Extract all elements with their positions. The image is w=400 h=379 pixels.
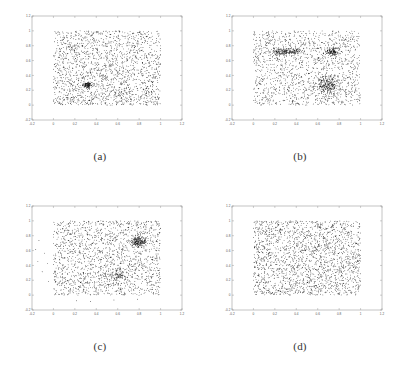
x-tick-label: 0.8 [337, 122, 342, 126]
data-points [253, 220, 361, 295]
y-tick-label: 0.4 [26, 74, 31, 78]
y-tick-label: 0.8 [26, 234, 31, 238]
x-tick-label: 1.2 [380, 312, 385, 316]
y-tick-label: 0.6 [26, 59, 31, 63]
y-tick-label: 0.6 [226, 59, 231, 63]
panel-caption-d: (d) [200, 340, 400, 352]
x-tick-label: 1 [360, 122, 362, 126]
panel-b: -0.200.20.40.60.811.2-0.200.20.40.60.811… [200, 0, 400, 189]
scatter-point-cloud [53, 30, 161, 105]
scatter-point-cloud [35, 220, 161, 301]
y-tick-label: 0 [29, 293, 31, 297]
scatter-chart-b: -0.200.20.40.60.811.2-0.200.20.40.60.811… [218, 12, 386, 132]
y-tick-label: 1 [229, 29, 231, 33]
panel-d: -0.200.20.40.60.811.2-0.200.20.40.60.811… [200, 190, 400, 379]
y-tick-label: 0.2 [226, 88, 231, 92]
x-tick-label: 0.2 [273, 312, 278, 316]
panel-c: -0.200.20.40.60.811.2-0.200.20.40.60.811… [0, 190, 200, 379]
y-tick-label: -0.2 [25, 308, 31, 312]
y-tick-label: 0.2 [26, 278, 31, 282]
x-tick-label: 0 [53, 122, 55, 126]
panel-caption-a: (a) [0, 150, 200, 162]
y-tick-label: 1.2 [26, 204, 31, 208]
panel-a: -0.200.20.40.60.811.2-0.200.20.40.60.811… [0, 0, 200, 189]
x-tick-label: 1 [160, 312, 162, 316]
plot-area-a: -0.200.20.40.60.811.2-0.200.20.40.60.811… [18, 12, 186, 132]
x-tick-label: 0 [253, 122, 255, 126]
y-tick-label: 1 [29, 29, 31, 33]
scatter-point-cloud [253, 30, 361, 105]
x-tick-label: 0 [53, 312, 55, 316]
y-tick-label: 0.2 [26, 88, 31, 92]
x-tick-label: 0.4 [294, 312, 299, 316]
x-tick-label: 0.6 [116, 312, 121, 316]
x-tick-label: -0.2 [229, 312, 235, 316]
x-tick-label: 0.6 [316, 122, 321, 126]
x-tick-label: 0.8 [337, 312, 342, 316]
y-tick-label: 1 [29, 219, 31, 223]
x-tick-label: 1 [160, 122, 162, 126]
x-tick-label: 0.4 [94, 122, 99, 126]
x-tick-label: 0.6 [316, 312, 321, 316]
y-tick-label: 1.2 [226, 204, 231, 208]
y-tick-label: 0 [229, 293, 231, 297]
y-tick-label: 1.2 [26, 14, 31, 18]
y-tick-label: 0 [29, 103, 31, 107]
y-tick-label: -0.2 [225, 118, 231, 122]
panel-caption-c: (c) [0, 340, 200, 352]
x-tick-label: -0.2 [29, 312, 35, 316]
y-tick-label: 0 [229, 103, 231, 107]
data-points [253, 30, 361, 105]
y-tick-label: -0.2 [25, 118, 31, 122]
x-tick-label: 0.2 [273, 122, 278, 126]
y-tick-label: 0.2 [226, 278, 231, 282]
x-tick-label: 0.8 [137, 122, 142, 126]
y-tick-label: 0.6 [26, 249, 31, 253]
x-tick-label: 0.8 [137, 312, 142, 316]
x-tick-label: 0.6 [116, 122, 121, 126]
y-tick-label: 0.6 [226, 249, 231, 253]
x-tick-label: 1.2 [180, 122, 185, 126]
panel-caption-b: (b) [200, 150, 400, 162]
x-tick-label: 0.4 [294, 122, 299, 126]
data-points [53, 30, 161, 105]
axes-frame [232, 206, 382, 310]
y-tick-label: 0.4 [26, 264, 31, 268]
y-tick-label: 1 [229, 219, 231, 223]
plot-area-b: -0.200.20.40.60.811.2-0.200.20.40.60.811… [218, 12, 386, 132]
scatter-chart-d: -0.200.20.40.60.811.2-0.200.20.40.60.811… [218, 202, 386, 322]
data-points [35, 220, 161, 301]
y-tick-label: 0.4 [226, 74, 231, 78]
y-tick-label: 0.8 [226, 44, 231, 48]
axes-frame [32, 16, 182, 120]
x-tick-label: -0.2 [229, 122, 235, 126]
scatter-chart-a: -0.200.20.40.60.811.2-0.200.20.40.60.811… [18, 12, 186, 132]
x-tick-label: -0.2 [29, 122, 35, 126]
plot-area-d: -0.200.20.40.60.811.2-0.200.20.40.60.811… [218, 202, 386, 322]
y-tick-label: 1.2 [226, 14, 231, 18]
y-tick-label: 0.8 [226, 234, 231, 238]
plot-area-c: -0.200.20.40.60.811.2-0.200.20.40.60.811… [18, 202, 186, 322]
y-tick-label: -0.2 [225, 308, 231, 312]
x-tick-label: 0.4 [94, 312, 99, 316]
y-tick-label: 0.8 [26, 44, 31, 48]
x-tick-label: 0.2 [73, 312, 78, 316]
scatter-point-cloud [253, 220, 361, 295]
x-tick-label: 1.2 [380, 122, 385, 126]
scatter-chart-c: -0.200.20.40.60.811.2-0.200.20.40.60.811… [18, 202, 186, 322]
y-tick-label: 0.4 [226, 264, 231, 268]
x-tick-label: 0.2 [73, 122, 78, 126]
x-tick-label: 1.2 [180, 312, 185, 316]
x-tick-label: 1 [360, 312, 362, 316]
x-tick-label: 0 [253, 312, 255, 316]
scatter-plot-figure: -0.200.20.40.60.811.2-0.200.20.40.60.811… [0, 0, 400, 379]
